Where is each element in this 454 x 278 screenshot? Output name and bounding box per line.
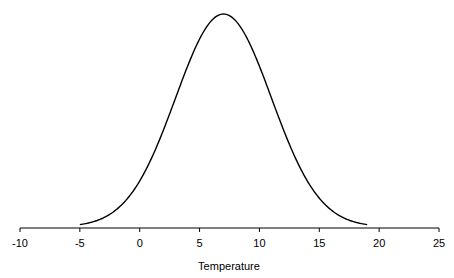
normal-curve [80, 14, 367, 225]
x-axis-title: Temperature [198, 260, 260, 272]
x-tick-label: -10 [12, 237, 28, 249]
temperature-density-chart: -10-50510152025 Temperature [0, 0, 454, 278]
x-tick-label: 5 [197, 237, 203, 249]
x-tick-label: 0 [137, 237, 143, 249]
x-tick-label: 20 [373, 237, 385, 249]
x-tick-label: 15 [313, 237, 325, 249]
x-axis-ticks: -10-50510152025 [12, 228, 445, 249]
x-tick-label: 25 [433, 237, 445, 249]
x-tick-label: -5 [75, 237, 85, 249]
x-tick-label: 10 [253, 237, 265, 249]
